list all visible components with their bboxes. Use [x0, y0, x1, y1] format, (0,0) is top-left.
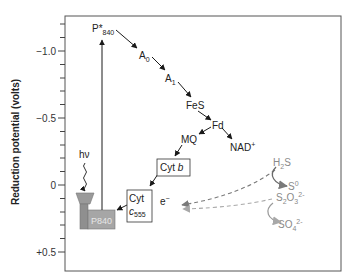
photosynthetic-electron-transport-diagram: −1.0 −0.5 0 +0.5 Reduction potential (vo… [0, 0, 351, 277]
fd-label: Fd [212, 120, 224, 131]
p840-excited-label: P*840 [92, 23, 114, 36]
so4-label: SO42- [278, 218, 303, 232]
h2s-electron-flow [182, 170, 275, 205]
cyt-b-label: Cyt b [160, 162, 184, 173]
electron-label: e− [160, 195, 170, 207]
tick-label-neg05: −0.5 [36, 113, 56, 124]
tick-label-0: 0 [50, 180, 56, 191]
y-axis [58, 24, 65, 252]
cyt-c555-line1: Cyt [129, 193, 144, 204]
fes-label: FeS [186, 100, 205, 111]
a1-label: A1 [165, 73, 176, 86]
a0-label: A0 [139, 50, 150, 63]
nad-label: NAD+ [230, 141, 255, 153]
light-wave-icon [84, 163, 87, 191]
tick-label-pos05: +0.5 [36, 247, 56, 258]
mq-label: MQ [181, 134, 197, 145]
tick-label-neg1: −1.0 [36, 46, 56, 57]
p840-label: P840 [91, 216, 112, 226]
light-label: hν [79, 149, 90, 160]
s0-label: S0 [288, 180, 299, 192]
plot-frame [65, 16, 341, 271]
y-axis-title: Reduction potential (volts) [10, 79, 21, 205]
s2o3-label: S2O32- [276, 191, 305, 205]
thiosulfate-electron-flow [183, 199, 272, 209]
